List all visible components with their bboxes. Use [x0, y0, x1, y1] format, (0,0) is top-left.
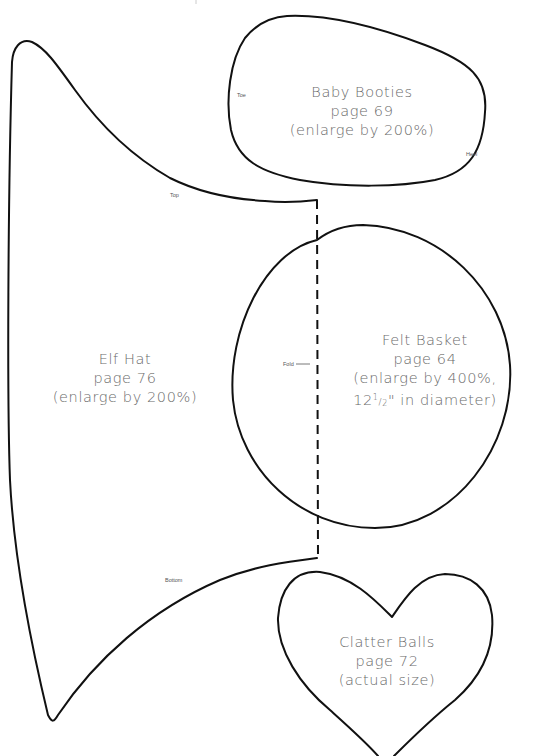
felt-basket-page: page 64	[340, 350, 510, 369]
heel-mark: Heel	[466, 151, 477, 157]
baby-booties-note: (enlarge by 200%)	[282, 121, 442, 140]
felt-basket-note: (enlarge by 400%,	[340, 369, 510, 388]
bottom-mark: Bottom	[165, 577, 182, 583]
felt-basket-diameter: 121/2" in diameter)	[340, 388, 510, 413]
elf-hat-fold-line	[317, 200, 318, 558]
felt-basket-name: Felt Basket	[340, 331, 510, 350]
clatter-balls-label: Clatter Balls page 72 (actual size)	[312, 633, 462, 690]
top-mark: Top	[170, 192, 179, 198]
clatter-balls-note: (actual size)	[312, 671, 462, 690]
felt-basket-label: Felt Basket page 64 (enlarge by 400%, 12…	[340, 331, 510, 413]
baby-booties-name: Baby Booties	[282, 83, 442, 102]
half-fraction: 1/2	[373, 397, 388, 407]
clatter-balls-page: page 72	[312, 652, 462, 671]
baby-booties-label: Baby Booties page 69 (enlarge by 200%)	[282, 83, 442, 140]
elf-hat-name: Elf Hat	[45, 350, 205, 369]
baby-booties-page: page 69	[282, 102, 442, 121]
elf-hat-note: (enlarge by 200%)	[45, 388, 205, 407]
toe-mark: Toe	[237, 92, 246, 98]
clatter-balls-name: Clatter Balls	[312, 633, 462, 652]
fold-mark: Fold	[283, 361, 294, 367]
elf-hat-label: Elf Hat page 76 (enlarge by 200%)	[45, 350, 205, 407]
elf-hat-page: page 76	[45, 369, 205, 388]
